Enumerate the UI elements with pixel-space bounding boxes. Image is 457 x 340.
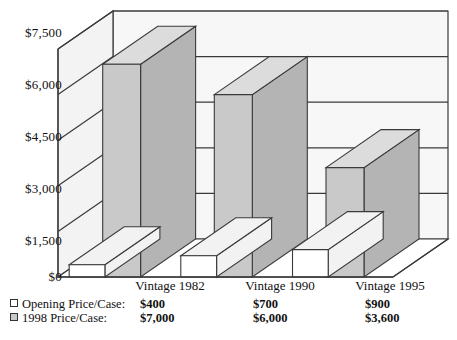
legend-swatch-filled-icon bbox=[10, 313, 18, 321]
chart-legend: Opening Price/Case: $400 $700 $900 1998 … bbox=[0, 297, 457, 337]
legend-label-1998-price: 1998 Price/Case: bbox=[22, 311, 107, 325]
legend-swatch-open-icon bbox=[10, 299, 18, 307]
y-tick-label-6000: $6,000 bbox=[0, 78, 62, 91]
y-tick-label-3000: $3,000 bbox=[0, 182, 62, 195]
bar-opening-vintage-1990-front bbox=[181, 256, 217, 277]
legend-label-opening-price: Opening Price/Case: bbox=[22, 297, 125, 311]
legend-value-opening-1982: $400 bbox=[140, 297, 230, 311]
legend-row-1998-price: 1998 Price/Case: $7,000 $6,000 $3,600 bbox=[10, 311, 457, 325]
x-category-label-1: Vintage 1990 bbox=[220, 279, 340, 293]
x-category-label-2: Vintage 1995 bbox=[330, 279, 450, 293]
legend-value-opening-1995: $900 bbox=[365, 297, 455, 311]
legend-value-opening-1990: $700 bbox=[253, 297, 343, 311]
y-tick-label-7500: $7,500 bbox=[0, 26, 62, 39]
legend-value-1998-1990: $6,000 bbox=[253, 311, 343, 325]
y-tick-label-4500: $4,500 bbox=[0, 130, 62, 143]
bar-opening-vintage-1982-front bbox=[69, 265, 105, 277]
legend-value-1998-1995: $3,600 bbox=[365, 311, 455, 325]
legend-value-1998-1982: $7,000 bbox=[140, 311, 230, 325]
bar-chart-3d bbox=[0, 0, 457, 300]
y-tick-label-0: $0 bbox=[0, 270, 62, 283]
x-category-label-0: Vintage 1982 bbox=[110, 279, 230, 293]
legend-row-opening-price: Opening Price/Case: $400 $700 $900 bbox=[10, 297, 457, 311]
y-tick-label-1500: $1,500 bbox=[0, 234, 62, 247]
bar-opening-vintage-1995-front bbox=[293, 250, 329, 277]
chart-container: $7,500 $6,000 $4,500 $3,000 $1,500 $0 Vi… bbox=[0, 0, 457, 340]
